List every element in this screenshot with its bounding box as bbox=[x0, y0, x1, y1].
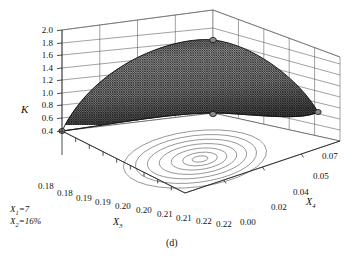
x4-tick-label: 0.02 bbox=[271, 203, 287, 212]
x4-axis-label-sub: 4 bbox=[312, 202, 316, 210]
x3-tick-label: 0.21 bbox=[157, 210, 173, 219]
x3-tick-label: 0.20 bbox=[115, 202, 131, 211]
condition-x2-value: =16% bbox=[19, 216, 42, 226]
z-axis bbox=[57, 30, 62, 155]
x4-axis-label: X4 bbox=[306, 197, 316, 210]
x3-tick-label: 0.22 bbox=[196, 217, 212, 226]
z-tick-label: 1.4 bbox=[31, 64, 53, 73]
x3-tick-label: 0.22 bbox=[216, 220, 232, 229]
x3-tick-label: 0.19 bbox=[76, 194, 92, 203]
x3-axis-label-sub: 3 bbox=[119, 222, 123, 230]
z-tick-label: 1.0 bbox=[31, 89, 53, 98]
condition-x1: X1=7 bbox=[10, 205, 29, 216]
condition-x1-value: =7 bbox=[19, 204, 30, 214]
x4-tick-label: 0.05 bbox=[313, 172, 329, 181]
z-tick-label: 2.0 bbox=[31, 26, 53, 35]
z-tick-label: 0.6 bbox=[31, 114, 53, 123]
z-tick-label: 0.4 bbox=[31, 127, 53, 136]
z-tick-label: 1.8 bbox=[31, 39, 53, 48]
z-tick-label: 1.6 bbox=[31, 51, 53, 60]
x3-tick-label: 0.21 bbox=[176, 214, 192, 223]
x4-tick-label: 0.07 bbox=[322, 152, 338, 161]
z-tick-label: 1.2 bbox=[31, 76, 53, 85]
z-tick-label: 0.8 bbox=[31, 101, 53, 110]
x3-axis-label: X3 bbox=[113, 217, 123, 230]
x3-tick-label: 0.20 bbox=[136, 206, 152, 215]
x3-tick-label: 0.19 bbox=[95, 198, 111, 207]
condition-x2: X2=16% bbox=[10, 217, 41, 228]
x4-tick-label: 0.00 bbox=[240, 218, 256, 227]
x3-tick-label: 0.18 bbox=[38, 182, 54, 191]
z-axis-label: K bbox=[21, 104, 28, 115]
x3-tick-label: 0.18 bbox=[57, 189, 73, 198]
figure-caption: (d) bbox=[166, 238, 178, 248]
